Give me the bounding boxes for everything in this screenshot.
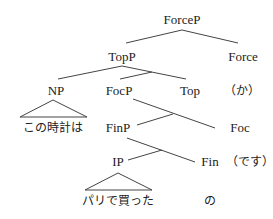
node-top: Top: [180, 84, 200, 98]
node-forcep: ForceP: [164, 13, 201, 27]
node-np: NP: [48, 84, 65, 98]
node-desu: （です）: [226, 155, 273, 169]
node-topp: TopP: [108, 50, 135, 64]
node-foc: Foc: [230, 121, 250, 135]
tree-branches: [0, 0, 273, 219]
node-no: の: [204, 194, 216, 208]
node-ip: IP: [112, 155, 124, 169]
node-fin: Fin: [201, 155, 218, 169]
node-finp: FinP: [106, 121, 131, 135]
node-ip-leaf: パリで買った: [82, 194, 154, 208]
node-force: Force: [228, 50, 258, 64]
node-np-leaf: この時計は: [23, 121, 83, 135]
node-focp: FocP: [106, 84, 133, 98]
node-ka: （か）: [224, 84, 260, 98]
